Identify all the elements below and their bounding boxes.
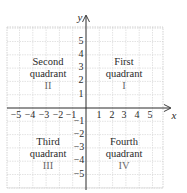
coordinate-plane (0, 0, 187, 193)
y-tick-label: −3 (74, 142, 85, 152)
x-tick-label: −3 (39, 110, 50, 120)
quadrant-i-label: First quadrant I (106, 56, 143, 92)
quadrant-iv-numeral: IV (106, 160, 143, 172)
quadrant-i-line1: First (106, 56, 143, 68)
quadrant-ii-line2: quadrant (30, 68, 67, 80)
y-tick-label: −2 (74, 129, 85, 139)
x-axis-label: x (172, 110, 177, 121)
y-tick-label: 3 (79, 62, 84, 72)
y-tick-label: −1 (74, 116, 85, 126)
x-tick-label: 4 (135, 110, 140, 120)
quadrant-iv-line2: quadrant (106, 148, 143, 160)
x-tick-label: −5 (11, 110, 22, 120)
quadrant-ii-line1: Second (30, 56, 67, 68)
quadrant-iii-label: Third quadrant III (30, 136, 67, 172)
quadrant-ii-label: Second quadrant II (30, 56, 67, 92)
y-tick-label: 2 (79, 75, 84, 85)
quadrant-iii-line1: Third (30, 136, 67, 148)
x-tick-label: 2 (110, 110, 115, 120)
quadrant-i-line2: quadrant (106, 68, 143, 80)
y-tick-label: −4 (74, 155, 85, 165)
y-tick-label: 1 (79, 89, 84, 99)
quadrant-iv-label: Fourth quadrant IV (106, 136, 143, 172)
y-tick-label: −5 (74, 169, 85, 179)
quadrant-iii-line2: quadrant (30, 148, 67, 160)
quadrant-i-numeral: I (106, 80, 143, 92)
x-tick-label: 1 (97, 110, 102, 120)
y-axis-label: y (78, 12, 83, 23)
x-tick-label: 3 (122, 110, 127, 120)
quadrant-iii-numeral: III (30, 160, 67, 172)
x-tick-label: 5 (148, 110, 153, 120)
quadrant-iv-line1: Fourth (106, 136, 143, 148)
y-tick-label: 4 (79, 49, 84, 59)
x-tick-label: −2 (53, 110, 64, 120)
x-tick-label: −4 (25, 110, 36, 120)
quadrant-ii-numeral: II (30, 80, 67, 92)
y-tick-label: 5 (79, 36, 84, 46)
